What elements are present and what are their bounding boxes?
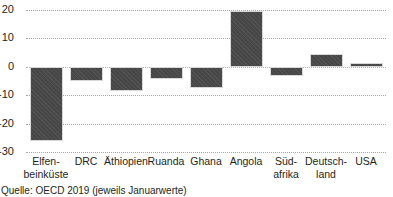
bar (350, 63, 383, 66)
x-axis-tick-label: USA (342, 155, 390, 168)
bar (30, 67, 63, 141)
ytick-label-20: 20 (0, 4, 14, 15)
bar (110, 67, 143, 91)
ytick-label-minus-20: -20 (0, 118, 14, 129)
ytick-label-0: 0 (0, 61, 14, 72)
x-axis-labels: Elfen- beinküsteDRCÄthiopienRuandaGhanaA… (26, 155, 386, 183)
bar (150, 67, 183, 79)
bar (270, 67, 303, 76)
plot-area: 20 10 0 -10 -20 -30 (26, 10, 386, 152)
ytick-label-minus-10: -10 (0, 89, 14, 100)
gridline-minus-30 (26, 152, 386, 153)
source-caption: Quelle: OECD 2019 (jeweils Januarwerte) (1, 185, 187, 197)
ytick-label-minus-30: -30 (0, 146, 14, 157)
bar (230, 11, 263, 66)
bar (310, 54, 343, 67)
bar-chart-figure: 20 10 0 -10 -20 -30 Elfen- beinküsteDRCÄ… (0, 0, 393, 197)
ytick-label-10: 10 (0, 32, 14, 43)
bar-series (26, 10, 386, 152)
bar (70, 67, 103, 81)
bar (190, 67, 223, 88)
